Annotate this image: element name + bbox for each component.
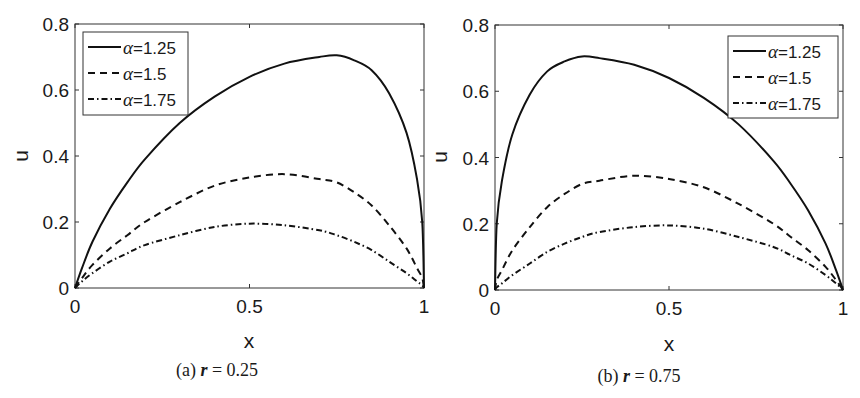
legend-entry-label: α=1.75 <box>768 93 821 114</box>
legend-entry-label: α=1.25 <box>123 37 176 58</box>
panel-caption: (a) r = 0.25 <box>176 360 258 381</box>
legend-value: =1.25 <box>133 39 176 58</box>
y-tick-label: 0.4 <box>43 146 70 167</box>
panel-b-r-0-75: 00.20.40.60.8 00.51 x u α=1.25α=1.5α=1.7… <box>428 15 848 387</box>
curve-dashed <box>75 174 424 288</box>
y-tick-label: 0.8 <box>463 15 489 36</box>
legend: α=1.25α=1.5α=1.75 <box>728 36 838 118</box>
legend-value: =1.5 <box>133 65 167 84</box>
legend-entry-label: α=1.5 <box>123 63 167 84</box>
y-axis-label: u <box>9 150 32 162</box>
y-axis-label: u <box>428 151 451 163</box>
panel-a-r-0-25: 00.20.40.60.8 00.51 x u α=1.25α=1.5α=1.7… <box>9 14 429 381</box>
legend: α=1.25α=1.5α=1.75 <box>83 32 188 115</box>
caption-value: = 0.75 <box>630 366 681 386</box>
curve-dashdot <box>75 224 424 288</box>
x-axis-label: x <box>244 329 255 352</box>
y-tick-label: 0.6 <box>463 81 489 102</box>
x-tick-label: 1 <box>838 298 849 319</box>
legend-value: =1.75 <box>133 91 176 110</box>
x-axis-label: x <box>664 332 675 355</box>
x-tick-label: 1 <box>419 296 430 317</box>
legend-value: =1.25 <box>778 43 821 62</box>
y-tick-label: 0.6 <box>43 80 69 101</box>
caption-prefix: (a) <box>176 360 200 381</box>
y-tick-label: 0 <box>478 280 489 301</box>
legend-value: =1.5 <box>778 69 812 88</box>
caption-value: = 0.25 <box>207 360 258 380</box>
panel-caption: (b) r = 0.75 <box>597 366 680 387</box>
y-tick-label: 0 <box>58 278 69 299</box>
legend-entry-label: α=1.5 <box>768 67 812 88</box>
figure: 00.20.40.60.8 00.51 x u α=1.25α=1.5α=1.7… <box>0 0 860 398</box>
x-tick-label: 0.5 <box>656 298 682 319</box>
y-tick-label: 0.4 <box>463 148 490 169</box>
legend-entry-label: α=1.75 <box>123 89 176 110</box>
legend-value: =1.75 <box>778 95 821 114</box>
y-tick-label: 0.8 <box>43 14 69 35</box>
x-tick-label: 0 <box>490 298 501 319</box>
y-tick-label: 0.2 <box>463 214 489 235</box>
caption-prefix: (b) <box>597 366 623 387</box>
y-tick-label: 0.2 <box>43 212 69 233</box>
curve-dashdot <box>495 225 843 290</box>
x-tick-label: 0.5 <box>236 296 262 317</box>
curve-dashed <box>495 176 843 290</box>
legend-entry-label: α=1.25 <box>768 41 821 62</box>
x-tick-label: 0 <box>70 296 81 317</box>
